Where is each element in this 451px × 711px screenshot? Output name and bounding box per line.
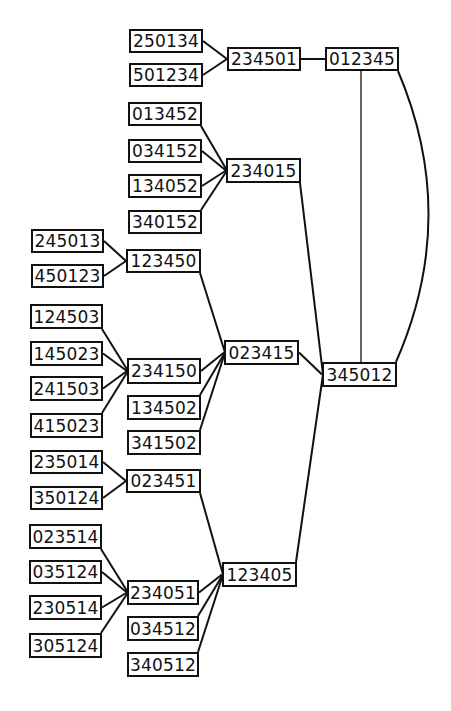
edge-123405-345012 (296, 375, 323, 563)
edge-241503-234150 (103, 371, 127, 389)
node-box-415023: 415023 (30, 413, 103, 438)
node-box-134052: 134052 (128, 174, 202, 198)
node-box-250134: 250134 (129, 29, 203, 53)
node-box-234015: 234015 (226, 158, 301, 183)
node-box-023514: 023514 (29, 524, 102, 549)
node-box-235014: 235014 (30, 450, 103, 474)
edge-145023-234150 (103, 354, 127, 372)
edge-234015-345012 (300, 183, 323, 375)
node-box-034152: 034152 (128, 139, 202, 163)
edge-501234-234501 (203, 59, 227, 75)
node-box-134502: 134502 (127, 395, 201, 420)
node-box-123405: 123405 (222, 562, 297, 587)
node-box-350124: 350124 (30, 486, 103, 510)
edge-350124-023451 (103, 481, 126, 498)
edge-023451-123405 (200, 493, 223, 575)
node-box-241503: 241503 (30, 376, 103, 401)
edge-245013-123450 (104, 241, 126, 261)
node-box-012345: 012345 (325, 47, 399, 71)
edge-124503-234150 (102, 329, 128, 371)
node-box-023415: 023415 (224, 340, 299, 365)
node-box-341502: 341502 (127, 430, 201, 455)
node-box-034512: 034512 (127, 616, 199, 641)
node-box-501234: 501234 (129, 63, 203, 87)
edge-123450-023415 (200, 273, 225, 353)
node-box-230514: 230514 (29, 595, 102, 620)
node-box-013452: 013452 (128, 102, 202, 126)
node-box-124503: 124503 (30, 304, 103, 329)
node-box-340152: 340152 (128, 210, 202, 234)
node-box-345012: 345012 (322, 362, 397, 387)
edge-134502-023415 (200, 353, 225, 396)
node-box-234051: 234051 (127, 580, 199, 605)
node-box-245013: 245013 (31, 229, 104, 253)
edge-034512-123405 (198, 575, 223, 617)
node-box-305124: 305124 (29, 633, 102, 658)
edge-013452-234015 (201, 126, 227, 171)
edge-340512-123405 (198, 575, 223, 653)
node-box-035124: 035124 (29, 560, 102, 584)
edge-023514-234051 (101, 549, 128, 593)
edge-305124-234051 (101, 593, 128, 634)
edge-340152-234015 (201, 171, 227, 211)
node-box-023451: 023451 (126, 469, 201, 493)
edge-415023-234150 (102, 371, 128, 413)
edge-341502-023415 (200, 353, 225, 431)
node-box-450123: 450123 (31, 264, 104, 288)
edge-250134-234501 (203, 41, 227, 59)
permutation-diagram: 2501345012342345010123450134520341521340… (0, 0, 451, 711)
edge-234150-023415 (201, 353, 224, 372)
edge-034152-234015 (202, 151, 226, 171)
node-box-234150: 234150 (127, 358, 201, 384)
edge-134052-234015 (202, 171, 226, 187)
node-box-234501: 234501 (227, 47, 301, 71)
node-box-145023: 145023 (30, 341, 103, 366)
edge-235014-023451 (103, 462, 126, 481)
node-box-123450: 123450 (126, 249, 201, 273)
edge-450123-123450 (104, 261, 126, 276)
edge-035124-234051 (102, 572, 127, 593)
edge-012345-345012 (396, 71, 429, 362)
node-box-340512: 340512 (127, 652, 199, 677)
edge-230514-234051 (102, 593, 127, 608)
edge-234051-123405 (199, 575, 222, 593)
edge-023415-345012 (299, 353, 322, 375)
